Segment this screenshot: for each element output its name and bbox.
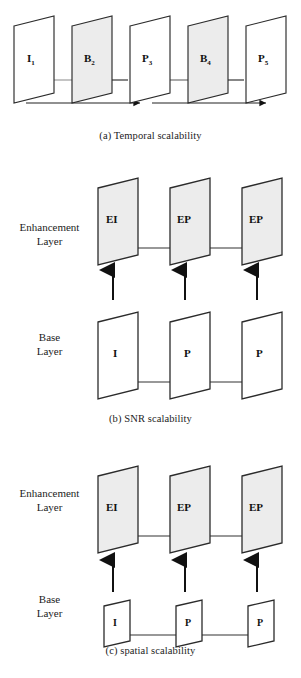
enh-frame-label-3: EP	[249, 501, 263, 513]
enh-frame-label-3: EP	[249, 213, 263, 225]
temporal-scalability-diagram: I1 B2 P3 B4 P5	[0, 0, 301, 150]
caption-snr-scalability: (b) SNR scalability	[0, 413, 301, 424]
snr-base-layer-label: Base Layer	[2, 331, 97, 358]
base-frame-label-3: P	[257, 617, 263, 628]
base-frame-label-2: P	[185, 617, 191, 628]
snr-enhancement-frame-2: EP	[170, 178, 210, 265]
spatial-scalability-diagram: EI EP EP I P	[0, 430, 301, 678]
snr-scalability-diagram: EI EP EP I P	[0, 150, 301, 430]
spatial-base-frame-2: P	[176, 600, 202, 647]
spatial-uplink-arrow-group	[113, 560, 257, 592]
enh-frame-label-1: EI	[106, 213, 118, 225]
spatial-base-layer-label-line2: Layer	[2, 607, 97, 621]
spatial-enhancement-layer-label-line2: Layer	[2, 501, 97, 515]
enh-frame-label-2: EP	[177, 501, 191, 513]
snr-base-layer-label-line1: Base	[2, 331, 97, 345]
snr-enhancement-frame-3: EP	[242, 178, 282, 265]
frame-b2: B2	[72, 16, 112, 103]
spatial-base-frame-1: I	[104, 600, 130, 647]
frame-b4: B4	[188, 16, 228, 103]
spatial-base-frame-3: P	[248, 600, 274, 647]
snr-uplink-arrow-group	[113, 270, 257, 300]
panel-snr-scalability: EI EP EP I P	[0, 150, 301, 430]
spatial-enhancement-layer-label: Enhancement Layer	[2, 487, 97, 514]
spatial-enhancement-layer-label-line1: Enhancement	[2, 487, 97, 501]
base-frame-label-1: I	[113, 617, 117, 628]
snr-enhancement-frame-1: EI	[98, 178, 138, 265]
spatial-enhancement-frame-1: EI	[98, 466, 138, 553]
enh-frame-label-2: EP	[177, 213, 191, 225]
frame-p5: P5	[246, 16, 286, 103]
base-frame-label-1: I	[113, 347, 117, 359]
snr-enhancement-layer-label: Enhancement Layer	[2, 221, 97, 248]
snr-base-frame-2: P	[170, 312, 210, 399]
spatial-base-layer-label-line1: Base	[2, 593, 97, 607]
frame-p3: P3	[130, 16, 170, 103]
snr-enhancement-layer-label-line2: Layer	[2, 235, 97, 249]
base-frame-label-3: P	[256, 347, 263, 359]
spatial-base-layer-label: Base Layer	[2, 593, 97, 620]
snr-base-frame-3: P	[242, 312, 282, 399]
base-frame-label-2: P	[184, 347, 191, 359]
snr-base-layer-label-line2: Layer	[2, 345, 97, 359]
enh-frame-label-1: EI	[106, 501, 118, 513]
snr-base-frame-1: I	[98, 312, 138, 399]
spatial-enhancement-frame-2: EP	[170, 466, 210, 553]
snr-enhancement-layer-label-line1: Enhancement	[2, 221, 97, 235]
panel-temporal-scalability: I1 B2 P3 B4 P5 (a) Temporal scalability	[0, 0, 301, 150]
frame-i1: I1	[14, 16, 54, 103]
panel-spatial-scalability: EI EP EP I P	[0, 430, 301, 678]
caption-spatial-scalability: (c) spatial scalability	[0, 645, 301, 656]
spatial-enhancement-frame-3: EP	[242, 466, 282, 553]
caption-temporal-scalability: (a) Temporal scalability	[0, 130, 301, 141]
